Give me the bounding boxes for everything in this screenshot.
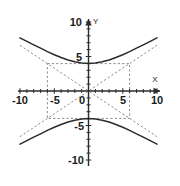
y-tick-label-neg10: -10 [68,154,84,166]
x-tick-label-neg5: -5 [50,94,60,106]
y-tick-label-neg5: -5 [74,120,84,132]
hyperbola-graph-figure: -10 -5 0 5 10 10 5 -5 -10 Y X [0,0,180,186]
x-tick-label-pos10: 10 [151,94,163,106]
y-tick-label-pos5: 5 [76,51,82,63]
x-tick-label-origin: 0 [79,94,85,106]
y-axis-label: Y [93,17,99,26]
coordinate-plane-svg: -10 -5 0 5 10 10 5 -5 -10 Y X [0,0,180,186]
x-axis-label: X [152,75,158,84]
axes-group [18,19,160,166]
x-tick-label-neg10: -10 [12,94,28,106]
x-tick-label-pos5: 5 [120,94,126,106]
y-tick-label-pos10: 10 [70,16,82,28]
